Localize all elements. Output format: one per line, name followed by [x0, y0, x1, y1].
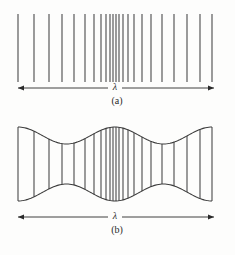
arrowhead-right — [208, 85, 214, 90]
panel-a: λ (a) — [18, 14, 214, 107]
figure-canvas: λ (a) λ (b) — [0, 0, 235, 255]
panel-a-wave-lines — [18, 14, 212, 82]
panel-b: λ (b) — [18, 127, 214, 236]
envelope-bottom-curve — [18, 184, 212, 201]
panel-a-lambda-label: λ — [112, 81, 118, 92]
panel-b-caption: (b) — [111, 224, 123, 236]
arrowhead-left — [18, 85, 24, 90]
arrowhead-right — [208, 214, 214, 219]
panel-b-lambda-label: λ — [112, 210, 118, 221]
envelope-top-curve — [18, 127, 212, 144]
arrowhead-left — [18, 214, 24, 219]
panel-b-envelope-curves — [18, 127, 212, 201]
panel-a-caption: (a) — [111, 95, 122, 107]
wave-figure: λ (a) λ (b) — [0, 0, 235, 255]
